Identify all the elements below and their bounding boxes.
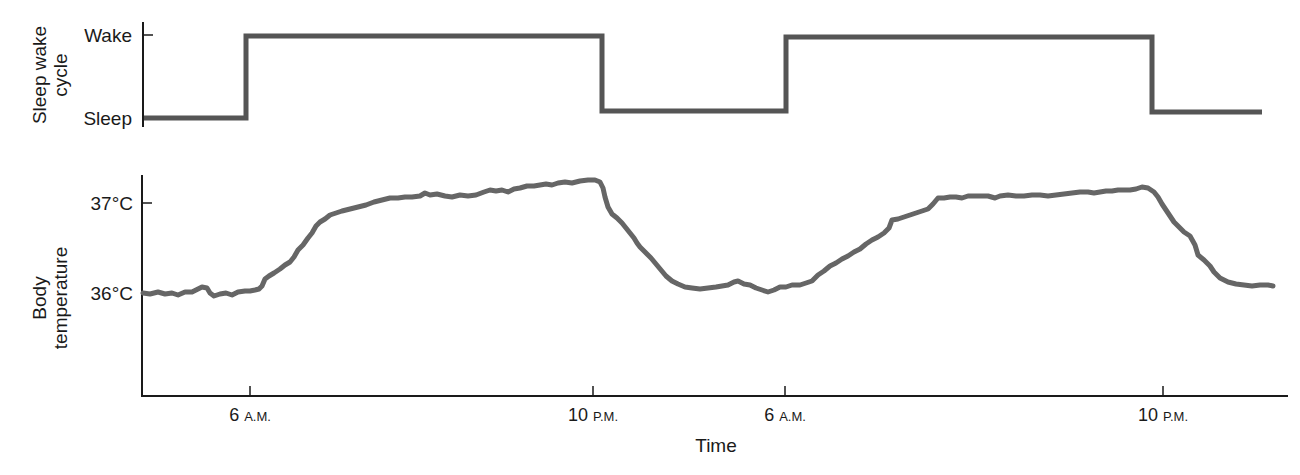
x-tick-label-1: 6A.M. [229, 405, 271, 425]
sleep-wake-axis-title-line2: cycle [50, 53, 71, 96]
temperature-axis-title-line2: temperature [50, 247, 71, 349]
x-tick-label-2: 10P.M. [568, 405, 618, 425]
x-tick-label-3: 6A.M. [764, 405, 806, 425]
sleep-wake-step-line [144, 36, 1262, 118]
temperature-axis-title: Body [29, 276, 50, 320]
y-tick-label-36: 36°C [91, 283, 133, 304]
temperature-axis-title-line1: Body [29, 276, 50, 320]
temperature-panel: Body temperature 37°C 36°C 6A.M. 10P.M. … [29, 175, 1288, 456]
chart-canvas: Sleep wake cycle Wake Sleep Body tempera… [0, 0, 1300, 475]
sleep-wake-panel: Sleep wake cycle Wake Sleep [29, 22, 1262, 129]
wake-label: Wake [84, 25, 132, 46]
sleep-wake-axis-title-line1: Sleep wake [29, 26, 50, 124]
x-tick-label-4: 10P.M. [1138, 405, 1188, 425]
y-tick-label-37: 37°C [91, 193, 133, 214]
sleep-label: Sleep [83, 108, 132, 129]
temperature-axis-title-2: temperature [50, 247, 71, 349]
x-axis-title: Time [695, 435, 737, 456]
sleep-wake-axis-title: Sleep wake [29, 26, 50, 124]
body-temperature-line [143, 180, 1273, 296]
sleep-wake-axis-title-2: cycle [50, 53, 71, 96]
